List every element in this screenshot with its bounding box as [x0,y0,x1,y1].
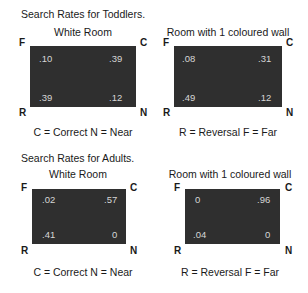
value-correct: .39 [109,53,122,64]
corner-label-far: F [21,182,27,193]
corner-label-far: F [163,37,169,48]
room-box: 0 .96 .04 0 [185,189,280,244]
value-correct: .31 [258,53,271,64]
toddlers-white-room-legend: C = Correct N = Near [20,126,146,138]
value-far: .02 [42,194,55,205]
value-far: 0 [195,194,200,205]
value-far: .08 [182,53,195,64]
toddlers-white-room-subtitle: White Room [30,26,136,38]
corner-label-near: N [285,245,292,256]
corner-label-correct: C [285,182,292,193]
corner-label-far: F [19,37,25,48]
value-reversal: .39 [39,92,52,103]
corner-label-correct: C [130,182,137,193]
value-correct: .96 [257,194,270,205]
toddlers-coloured-room-legend: R = Reversal F = Far [164,126,292,138]
value-far: .10 [39,53,52,64]
room-box: .02 .57 .41 0 [32,189,126,244]
adults-coloured-room-subtitle: Room with 1 coloured wall [166,168,294,180]
toddlers-title: Search Rates for Toddlers. [21,8,145,20]
adults-title: Search Rates for Adults. [21,152,134,164]
corner-label-correct: C [140,37,147,48]
room-box: .08 .31 .49 .12 [174,46,282,107]
value-near: 0 [265,229,270,240]
corner-label-reversal: R [174,245,181,256]
corner-label-reversal: R [163,107,170,118]
corner-label-near: N [286,107,293,118]
value-reversal: .41 [42,229,55,240]
adults-coloured-room-legend: R = Reversal F = Far [166,266,294,278]
corner-label-correct: C [286,37,293,48]
room-box: .10 .39 .39 .12 [30,46,136,107]
value-near: 0 [112,229,117,240]
corner-label-near: N [130,245,137,256]
value-correct: .57 [104,194,117,205]
value-reversal: .04 [193,229,206,240]
corner-label-far: F [174,182,180,193]
corner-label-reversal: R [21,245,28,256]
adults-white-room-legend: C = Correct N = Near [20,266,146,278]
value-reversal: .49 [182,92,195,103]
value-near: .12 [258,92,271,103]
toddlers-coloured-room-subtitle: Room with 1 coloured wall [164,26,292,38]
adults-white-room-subtitle: White Room [25,168,131,180]
corner-label-reversal: R [19,107,26,118]
corner-label-near: N [140,107,147,118]
value-near: .12 [109,92,122,103]
